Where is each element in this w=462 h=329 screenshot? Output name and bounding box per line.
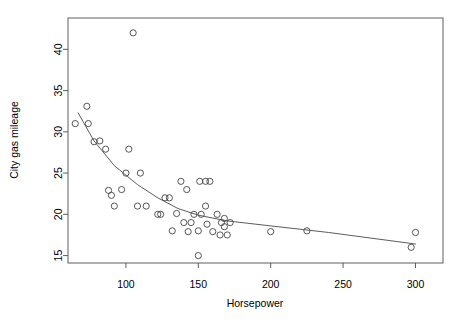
scatter-plot-figure: 152025303540 100150200250300 Horsepower … [0,0,462,329]
x-tick-label: 300 [407,278,425,290]
plot-canvas: 152025303540 100150200250300 Horsepower … [0,0,462,329]
y-axis-title: City gas mileage [8,101,20,179]
x-tick-label: 200 [262,278,280,290]
x-tick-label: 100 [117,278,135,290]
x-axis-title: Horsepower [227,297,284,309]
x-tick-label: 250 [334,278,352,290]
y-tick-label: 25 [52,167,64,179]
y-tick-label: 15 [52,250,64,262]
y-tick-label: 35 [52,85,64,97]
y-tick-label: 20 [52,208,64,220]
plot-background [0,0,462,329]
y-tick-label: 30 [52,126,64,138]
y-tick-label: 40 [52,43,64,55]
x-tick-label: 150 [190,278,208,290]
